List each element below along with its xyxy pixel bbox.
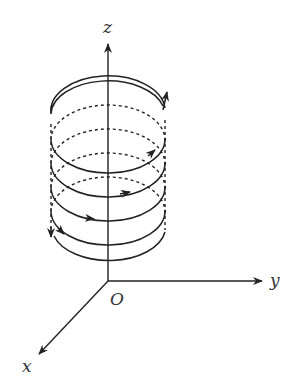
x-axis (39, 281, 108, 354)
axes (39, 44, 262, 354)
helix-front (51, 76, 167, 261)
helix-diagram: z y x O (0, 0, 301, 387)
origin-label: O (110, 289, 124, 309)
y-axis-label: y (269, 270, 280, 290)
z-axis-label: z (102, 17, 113, 37)
x-axis-label: x (22, 356, 32, 376)
